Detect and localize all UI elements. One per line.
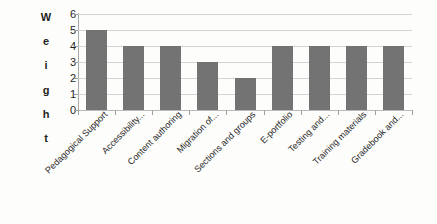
y-axis-tick-labels: 0123456	[62, 8, 76, 118]
y-axis-title-letter: e	[43, 36, 49, 47]
bar-chart: Weight 0123456 Pedagogical SupportAccess…	[0, 0, 437, 224]
bar	[86, 30, 107, 110]
x-axis-category-label-text: Pedagogical Support	[43, 110, 108, 175]
x-axis-category-labels: Pedagogical SupportAccessibility...Conte…	[0, 110, 437, 224]
y-axis-title-letter: W	[41, 12, 51, 23]
x-axis-category-label-text: E-portfolio	[259, 110, 294, 145]
y-axis-title-letter: g	[43, 85, 50, 96]
y-axis-title-letter: i	[44, 60, 47, 71]
